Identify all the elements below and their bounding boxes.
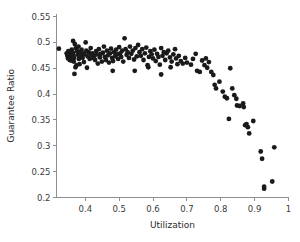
data-point — [168, 65, 173, 70]
y-axis-title: Guarantee Ratio — [6, 68, 16, 142]
scatter-chart: 0.20.250.30.350.40.450.50.550.40.50.60.7… — [0, 0, 300, 242]
data-point — [121, 59, 126, 64]
x-axis-title: Utilization — [150, 220, 195, 230]
data-point — [56, 46, 61, 51]
data-point — [128, 44, 133, 49]
data-point — [143, 51, 148, 56]
x-tick-label-0.8: 0.8 — [214, 204, 228, 214]
data-point — [251, 119, 256, 124]
x-tick-label-0.5: 0.5 — [112, 204, 126, 214]
data-point — [95, 61, 100, 66]
data-point — [156, 55, 161, 60]
y-tick-label-0.35: 0.35 — [32, 115, 51, 125]
data-point — [141, 58, 146, 63]
data-point — [149, 52, 154, 57]
data-point — [230, 86, 235, 91]
data-point — [152, 47, 157, 52]
data-point — [183, 56, 188, 61]
data-point — [260, 156, 265, 161]
data-point — [169, 59, 174, 64]
y-tick-label-0.3: 0.3 — [37, 141, 51, 151]
data-point — [146, 65, 151, 70]
x-tick-label-0.6: 0.6 — [146, 204, 160, 214]
data-point — [157, 62, 162, 67]
x-tick-label-0.7: 0.7 — [180, 204, 194, 214]
data-point — [245, 125, 250, 130]
data-point — [207, 60, 212, 65]
y-tick-label-0.4: 0.4 — [37, 89, 51, 99]
data-point — [224, 96, 229, 101]
data-point — [101, 50, 106, 55]
data-point — [119, 55, 124, 60]
data-point — [159, 46, 164, 51]
data-point — [153, 59, 158, 64]
data-point — [217, 79, 222, 84]
data-point — [258, 149, 263, 154]
data-point — [134, 54, 139, 59]
data-point — [132, 68, 137, 73]
data-point — [220, 89, 225, 94]
data-point — [77, 62, 82, 67]
data-point — [144, 45, 149, 50]
data-point — [127, 56, 132, 61]
data-point — [136, 43, 141, 48]
data-point — [173, 47, 178, 52]
data-point — [111, 59, 116, 64]
data-point — [82, 60, 87, 65]
data-point — [184, 60, 189, 65]
x-tick-label-1: 1 — [286, 204, 291, 214]
data-point — [180, 61, 185, 66]
data-point — [241, 105, 246, 110]
data-point — [72, 72, 77, 77]
data-point — [211, 73, 216, 78]
data-point — [189, 62, 194, 67]
data-point — [234, 96, 239, 101]
data-point — [262, 186, 267, 191]
data-point — [247, 131, 252, 136]
data-point — [171, 52, 176, 57]
data-point — [159, 72, 164, 77]
data-point — [138, 53, 143, 58]
y-tick-label-0.2: 0.2 — [37, 193, 51, 203]
data-point — [214, 86, 219, 91]
data-point — [96, 47, 101, 52]
data-point — [102, 44, 107, 49]
data-point — [228, 66, 233, 71]
x-tick-label-0.4: 0.4 — [79, 204, 93, 214]
data-point — [88, 46, 93, 51]
data-point — [163, 58, 168, 63]
y-tick-label-0.55: 0.55 — [32, 12, 51, 22]
data-point — [193, 51, 198, 56]
data-point — [197, 69, 202, 74]
data-point — [176, 53, 181, 58]
data-point — [191, 57, 196, 62]
data-point — [85, 65, 90, 70]
data-point — [73, 65, 78, 70]
x-tick-label-0.9: 0.9 — [248, 204, 262, 214]
y-tick-label-0.45: 0.45 — [32, 63, 51, 73]
data-point — [166, 48, 171, 53]
data-point — [270, 179, 275, 184]
data-point — [122, 36, 127, 41]
data-point — [272, 145, 277, 150]
data-point — [110, 68, 115, 73]
data-point — [108, 51, 113, 56]
data-point — [72, 56, 77, 61]
y-tick-label-0.5: 0.5 — [37, 37, 51, 47]
data-point — [205, 65, 210, 70]
plot-area: 0.20.250.30.350.40.450.50.550.40.50.60.7… — [0, 0, 300, 242]
y-tick-label-0.25: 0.25 — [32, 167, 51, 177]
data-point — [226, 117, 231, 122]
data-point — [83, 40, 88, 45]
